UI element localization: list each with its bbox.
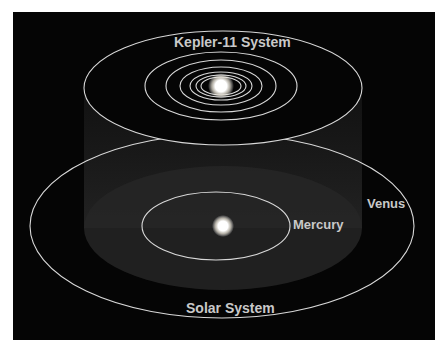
solar-system-label: Solar System (186, 300, 275, 316)
kepler-star-icon (208, 73, 234, 99)
mercury-label: Mercury (293, 217, 344, 232)
kepler-system-label: Kepler-11 System (174, 34, 291, 50)
orbit-diagram (0, 0, 445, 350)
sun-icon (212, 215, 234, 237)
venus-label: Venus (367, 196, 405, 211)
